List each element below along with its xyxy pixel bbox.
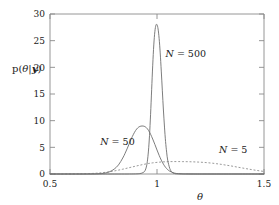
annotation-n-500: N = 500 xyxy=(165,48,206,59)
annotation-n-50: N = 50 xyxy=(99,136,134,147)
y-tick-label-10: 10 xyxy=(34,116,46,126)
y-tick-label-30: 30 xyxy=(34,9,46,19)
x-tick-label-1: 1 xyxy=(154,179,160,189)
y-tick-label-15: 15 xyxy=(34,89,46,99)
x-axis-title: θ xyxy=(197,191,203,202)
svg-text:θ: θ xyxy=(197,191,203,202)
x-axis-tick-labels: 0.5 1 1.5 xyxy=(43,179,272,189)
y-tick-label-0: 0 xyxy=(39,169,45,179)
chart-figure: 0 5 10 15 20 25 30 0.5 1 1.5 p(θ|y) xyxy=(0,0,279,205)
y-axis-title: p(θ|y) xyxy=(12,63,42,75)
annotation-n-5: N = 5 xyxy=(218,144,247,155)
y-axis-tick-labels: 0 5 10 15 20 25 30 xyxy=(34,9,46,179)
x-tick-label-0.5: 0.5 xyxy=(43,179,58,189)
x-tick-label-1.5: 1.5 xyxy=(257,179,272,189)
posterior-density-plot: 0 5 10 15 20 25 30 0.5 1 1.5 p(θ|y) xyxy=(0,0,279,205)
y-tick-label-5: 5 xyxy=(39,143,45,153)
y-tick-label-25: 25 xyxy=(34,36,46,46)
series-annotations: N = 500 N = 50 N = 5 xyxy=(99,48,247,155)
svg-text:p(θ|y): p(θ|y) xyxy=(12,63,42,75)
